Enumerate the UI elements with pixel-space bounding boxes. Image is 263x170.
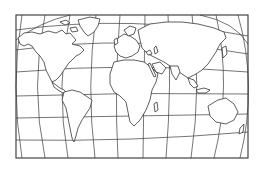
madagascar xyxy=(154,102,158,112)
map-canvas xyxy=(0,0,263,170)
world-map: World outline map xyxy=(0,0,263,170)
